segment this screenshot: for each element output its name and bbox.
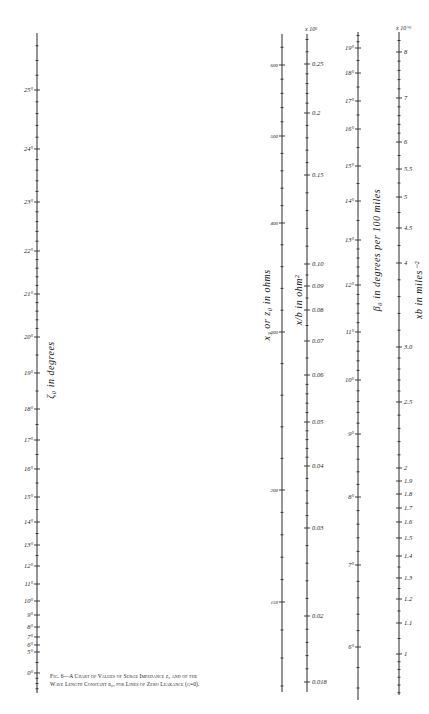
tick-label: 0.08 [312,306,324,313]
axis-title: x₃ or z₀ in ohms [261,269,272,341]
tick-label: 14° [345,197,355,204]
tick-label: 17° [345,97,355,104]
tick-label: 600 [271,63,279,68]
tick-label: 8 [404,48,408,55]
tick-label: 1.8 [404,490,413,497]
tick-label: 1.1 [404,619,412,626]
tick-label: 12° [345,281,355,288]
tick-label: 0.07 [312,337,324,344]
tick-label: 10° [345,376,355,383]
tick-label: 0.15 [312,171,324,178]
tick-label: 400 [271,221,279,226]
tick-label: 1.6 [404,518,413,525]
tick-label: 0.02 [312,612,324,619]
tick-label: 19° [24,369,34,376]
tick-label: 14° [24,518,34,525]
caption-line-1: Fig. 6—A Chart of Values of Surge Impeda… [50,672,290,680]
tick-label: 11° [345,328,354,335]
tick-label: 5° [27,648,33,655]
tick-label: 12° [24,562,34,569]
tick-label: 13° [24,541,34,548]
tick-label: 4 [404,259,408,266]
tick-label: 6° [27,641,33,648]
tick-label: 0.03 [312,524,324,531]
tick-label: 20° [24,333,34,340]
tick-label: 21° [24,290,34,297]
tick-label: 500 [271,134,279,139]
tick-label: 15° [345,162,355,169]
scale-zeta0: 25°24°23°22°21°20°19°18°17°16°15°14°13°1… [24,33,40,693]
scale-x_over_b: 0.250.20.150.100.090.080.070.060.050.040… [304,34,327,692]
tick-label: 2.5 [404,398,413,405]
axes-group: 25°24°23°22°21°20°19°18°17°16°15°14°13°1… [24,32,413,700]
scale-xb: 8765.554.543.02.521.91.81.71.61.51.41.31… [396,32,413,695]
tick-label: 11° [24,580,33,587]
tick-label: 4.5 [404,224,413,231]
tick-label: 0.04 [312,462,324,469]
tick-label: 1.9 [404,477,413,484]
tick-label: 16° [345,125,355,132]
tick-label: 13° [345,236,355,243]
axis-titles-group: ζ₀ in degreesx₃ or z₀ in ohmsx/b in ohm²… [45,25,424,399]
tick-label: 0.018 [312,678,327,685]
axis-title: x/b in ohm² [293,274,304,326]
tick-label: 10° [24,597,34,604]
tick-label: 23° [24,198,34,205]
tick-label: 0.2 [312,109,321,116]
tick-label: 200 [271,488,279,493]
tick-label: 1.5 [404,534,413,541]
tick-label: 0.10 [312,260,324,267]
caption-line-2: Wave Length Constant β₀, for Lines of Ze… [50,680,290,688]
tick-label: 6 [404,138,408,145]
scale-multiplier: x 10⁻⁶ [395,25,411,31]
tick-label: 5.5 [404,165,413,172]
scale-multiplier: x 10⁶ [304,26,317,32]
tick-label: 7° [27,633,33,640]
scale-beta0: 19°18°17°16°15°14°13°12°11°10°9°8°7°6° [345,32,361,700]
tick-label: 1.3 [404,574,413,581]
tick-label: 8° [348,493,354,500]
tick-label: 7 [404,94,408,101]
tick-label: 18° [345,69,355,76]
tick-label: 17° [24,436,34,443]
tick-label: 1 [404,650,407,657]
nomograph-chart: 25°24°23°22°21°20°19°18°17°16°15°14°13°1… [0,0,429,714]
tick-label: 1.7 [404,504,413,511]
tick-label: 9° [348,430,354,437]
tick-label: 6° [348,643,354,650]
tick-label: 150 [271,600,279,605]
tick-label: 1.2 [404,595,413,602]
tick-label: 15° [24,493,34,500]
tick-label: 3.0 [403,343,413,350]
tick-label: 16° [24,465,34,472]
tick-label: 22° [24,247,34,254]
tick-label: 19° [345,44,355,51]
scale-z0: 600500400300200150 [271,34,286,692]
tick-label: 0.05 [312,418,324,425]
axis-title: β₀ in degrees per 100 miles [371,189,382,312]
axis-title: ζ₀ in degrees [45,341,57,399]
tick-label: 0.09 [312,282,324,289]
tick-label: 5 [404,193,408,200]
tick-label: 25° [24,86,34,93]
tick-label: 18° [24,405,34,412]
tick-label: 0° [27,669,33,676]
figure-caption: Fig. 6—A Chart of Values of Surge Impeda… [50,672,290,688]
axis-title: xb in miles⁻² [413,261,424,320]
tick-label: 1.4 [404,552,413,559]
tick-label: 2 [404,464,408,471]
tick-label: 0.06 [312,371,324,378]
tick-label: 9° [27,611,33,618]
tick-label: 24° [24,145,34,152]
tick-label: 8° [27,623,33,630]
tick-label: 0.25 [312,60,324,67]
tick-label: 7° [348,561,354,568]
